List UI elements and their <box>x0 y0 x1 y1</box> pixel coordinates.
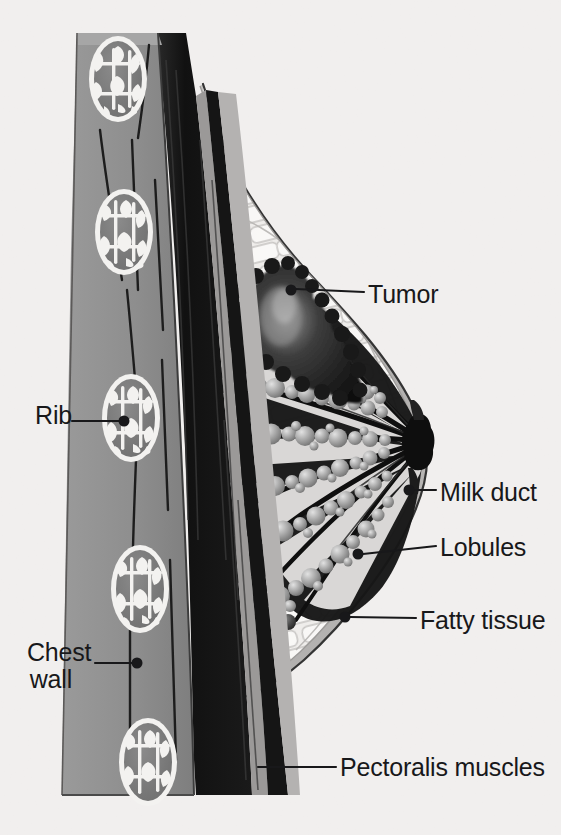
label-tumor: Tumor <box>368 281 438 308</box>
label-milk-duct: Milk duct <box>440 479 537 506</box>
leader-dot-rib <box>119 416 130 427</box>
rib <box>95 189 153 275</box>
rib <box>102 374 160 462</box>
leader-dot-fatty-tissue <box>340 612 351 623</box>
leader-dot-lobules <box>353 549 364 560</box>
label-lobules: Lobules <box>440 534 526 561</box>
rib <box>119 718 177 806</box>
breast-cross-section-diagram <box>0 0 561 835</box>
leader-dot-chest-wall <box>132 658 143 669</box>
leader-dot-milk-duct <box>404 485 415 496</box>
label-chest-wall: Chest wall <box>27 639 72 693</box>
label-pectoralis-muscles: Pectoralis muscles <box>340 754 545 781</box>
rib <box>89 36 147 122</box>
label-fatty-tissue: Fatty tissue <box>420 607 545 634</box>
illustration-canvas: Tumor Milk duct Lobules Fatty tissue Pec… <box>0 0 561 835</box>
leader-line-fatty-tissue <box>350 617 416 618</box>
leader-dot-tumor <box>286 285 297 296</box>
rib <box>111 545 169 633</box>
label-rib: Rib <box>27 402 72 429</box>
